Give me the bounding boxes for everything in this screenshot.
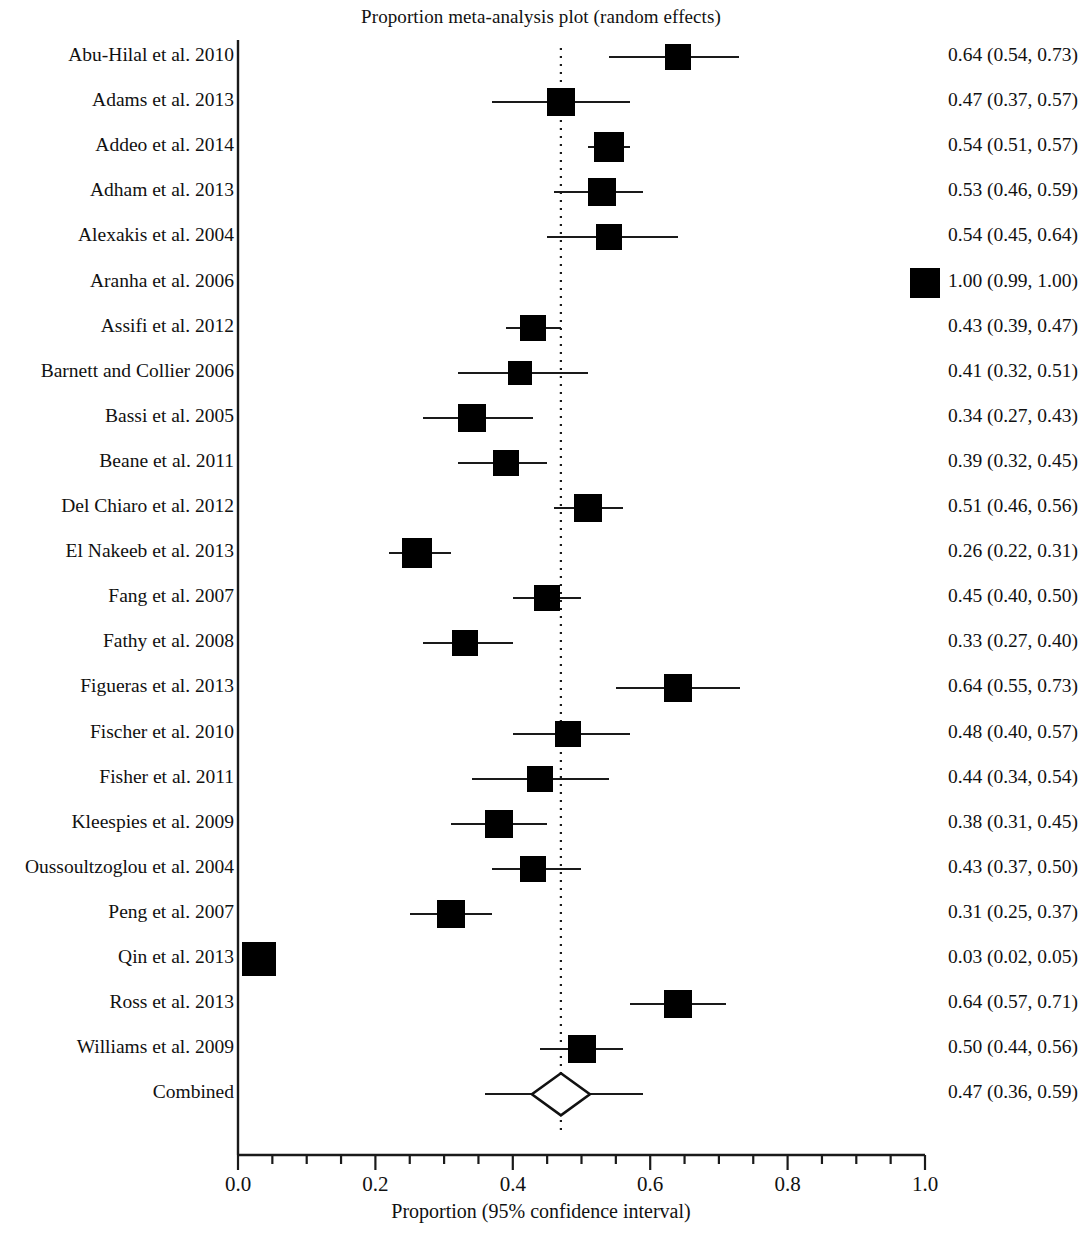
x-axis-tick-label: 0.4: [468, 1172, 558, 1197]
study-point-marker: [242, 942, 276, 976]
study-point-marker: [437, 900, 465, 928]
study-point-marker: [910, 268, 940, 298]
x-axis-tick-label: 0.0: [193, 1172, 283, 1197]
study-point-marker: [574, 494, 602, 522]
study-point-marker: [520, 315, 546, 341]
x-axis-tick-label: 0.8: [743, 1172, 833, 1197]
study-point-marker: [665, 44, 691, 70]
x-axis-tick-label: 1.0: [880, 1172, 970, 1197]
study-point-marker: [588, 178, 616, 206]
study-point-marker: [452, 630, 478, 656]
study-point-marker: [402, 538, 432, 568]
study-point-marker: [520, 856, 546, 882]
markers-layer: [0, 0, 1082, 1233]
study-point-marker: [555, 721, 581, 747]
study-point-marker: [568, 1035, 596, 1063]
study-point-marker: [596, 224, 622, 250]
forest-plot: Proportion meta-analysis plot (random ef…: [0, 0, 1082, 1233]
study-point-marker: [508, 361, 532, 385]
study-point-marker: [458, 404, 486, 432]
x-axis-tick-label: 0.2: [330, 1172, 420, 1197]
study-point-marker: [485, 810, 513, 838]
study-point-marker: [493, 450, 519, 476]
study-point-marker: [594, 132, 624, 162]
x-axis-tick-label: 0.6: [605, 1172, 695, 1197]
confidence-interval-line: [485, 1093, 643, 1095]
study-point-marker: [664, 674, 692, 702]
study-point-marker: [527, 766, 553, 792]
study-point-marker: [547, 88, 575, 116]
x-axis-title: Proportion (95% confidence interval): [0, 1200, 1082, 1223]
study-point-marker: [534, 585, 560, 611]
study-point-marker: [664, 990, 692, 1018]
